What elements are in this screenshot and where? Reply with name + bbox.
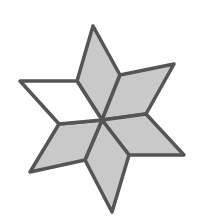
rhombus-group [20, 26, 184, 212]
six-pointed-star-diagram [0, 0, 199, 223]
